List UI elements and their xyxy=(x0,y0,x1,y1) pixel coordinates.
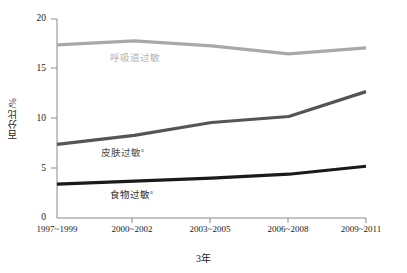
series-line-food xyxy=(57,166,366,184)
series-label-food-text: 食物过敏 xyxy=(110,190,150,200)
series-line-respiratory xyxy=(57,41,366,54)
x-axis-ticks xyxy=(132,218,366,223)
x-axis-title: 3年 xyxy=(0,250,407,265)
line-chart: 百分比/% 20 15 10 5 0 呼吸道过敏 皮肤过敏a xyxy=(0,0,407,273)
x-tick-label-2003-2005: 2003~2005 xyxy=(173,224,247,234)
x-tick-label-2006-2008: 2006~2008 xyxy=(251,224,325,234)
series-label-food-marker: a xyxy=(150,189,153,195)
series-label-food: 食物过敏a xyxy=(110,187,153,201)
x-tick-label-1997-1999: 1997~1999 xyxy=(20,224,94,234)
x-tick-label-2009-2011: 2009~2011 xyxy=(324,224,398,234)
series-label-skin: 皮肤过敏a xyxy=(101,145,144,159)
series-label-respiratory: 呼吸道过敏 xyxy=(110,50,160,64)
series-label-skin-marker: a xyxy=(141,147,144,153)
series-label-respiratory-text: 呼吸道过敏 xyxy=(110,53,160,63)
series-label-skin-text: 皮肤过敏 xyxy=(101,148,141,158)
series-line-skin xyxy=(57,92,366,145)
x-tick-label-2000-2002: 2000~2002 xyxy=(95,224,169,234)
y-axis-ticks xyxy=(51,19,57,168)
